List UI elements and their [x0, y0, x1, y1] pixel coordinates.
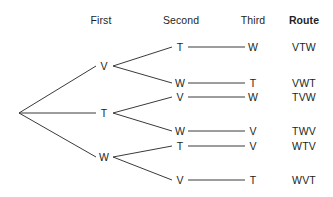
node-third-w-0: W	[248, 42, 258, 53]
edge-root-to-first-2	[19, 113, 96, 157]
node-first-t-1: T	[101, 108, 107, 119]
tree-edges	[0, 0, 333, 197]
edge-first-to-second-5	[113, 157, 172, 180]
column-header-second-1: Second	[163, 15, 199, 26]
node-third-v-4: V	[249, 141, 256, 152]
column-header-route-3: Route	[289, 15, 319, 26]
node-second-w-1: W	[175, 78, 185, 89]
route-label-wvt-5: WVT	[292, 175, 316, 186]
edge-first-to-second-4	[113, 146, 172, 157]
route-label-wtv-4: WTV	[292, 141, 316, 152]
route-label-twv-3: TWV	[292, 126, 316, 137]
route-label-vtw-0: VTW	[292, 42, 316, 53]
node-first-w-2: W	[99, 152, 109, 163]
column-header-third-2: Third	[241, 15, 265, 26]
column-header-first-0: First	[91, 15, 112, 26]
route-label-tvw-2: TVW	[292, 92, 316, 103]
node-second-v-2: V	[176, 92, 183, 103]
edge-root-to-first-0	[19, 66, 96, 113]
node-first-v-0: V	[100, 61, 107, 72]
node-second-w-3: W	[175, 126, 185, 137]
node-second-v-5: V	[176, 175, 183, 186]
tree-diagram: FirstSecondThirdRoute VTW TWVWTV WTWVVT …	[0, 0, 333, 197]
edge-first-to-second-1	[113, 66, 172, 83]
node-third-t-5: T	[250, 175, 256, 186]
edge-first-to-second-2	[113, 97, 172, 113]
node-second-t-4: T	[177, 141, 183, 152]
node-third-w-2: W	[248, 92, 258, 103]
edge-first-to-second-3	[113, 113, 172, 131]
edge-first-to-second-0	[113, 47, 172, 66]
route-label-vwt-1: VWT	[292, 78, 316, 89]
node-third-t-1: T	[250, 78, 256, 89]
node-third-v-3: V	[249, 126, 256, 137]
node-second-t-0: T	[177, 42, 183, 53]
